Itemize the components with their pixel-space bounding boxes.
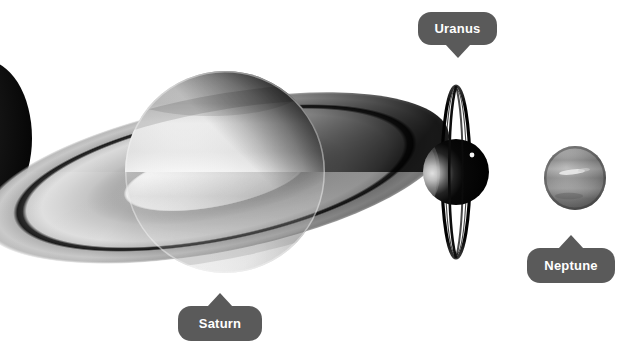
planet-label-uranus[interactable]: Uranus bbox=[418, 12, 497, 45]
planet-label-neptune[interactable]: Neptune bbox=[527, 248, 615, 283]
planet-label-saturn[interactable]: Saturn bbox=[178, 306, 262, 341]
planet-label-saturn-text: Saturn bbox=[199, 317, 241, 330]
image-canvas: Uranus Saturn Neptune bbox=[0, 0, 632, 361]
callout-tail-icon bbox=[558, 235, 584, 249]
uranus-moon-dot bbox=[470, 153, 475, 158]
callout-tail-icon bbox=[207, 293, 233, 307]
neptune-planet bbox=[544, 146, 606, 210]
callout-tail-icon bbox=[445, 44, 471, 58]
planet-label-uranus-text: Uranus bbox=[435, 22, 481, 35]
planet-label-neptune-text: Neptune bbox=[544, 259, 597, 272]
planets-illustration bbox=[0, 0, 632, 361]
